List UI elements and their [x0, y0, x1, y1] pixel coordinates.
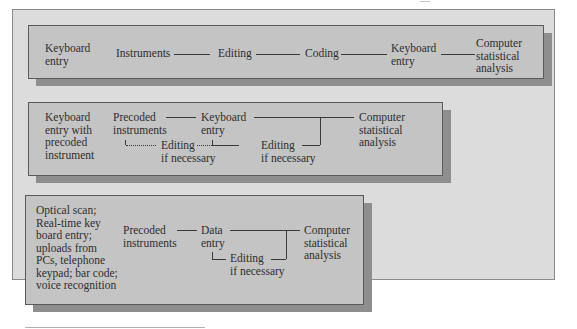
- connector: [441, 54, 475, 55]
- connector: [174, 54, 210, 55]
- connector: [254, 117, 354, 118]
- text-line: instruments: [123, 237, 177, 250]
- row1-keyboard-entry: Keyboard entry: [391, 42, 436, 67]
- dotted-connector: [197, 145, 212, 146]
- text-line: entry: [201, 124, 246, 137]
- text-line: Computer: [304, 224, 350, 237]
- row2-box: Keyboard entry with precoded instrument …: [28, 102, 443, 176]
- text-line: voice recognition: [36, 279, 118, 292]
- connector: [256, 54, 300, 55]
- text-line: entry with: [45, 124, 94, 137]
- connector: [341, 54, 387, 55]
- connector: [177, 230, 197, 231]
- row2-editing-1: Editing if necessary: [161, 139, 216, 164]
- connector: [320, 117, 321, 145]
- connector: [212, 252, 213, 259]
- row1-editing: Editing: [218, 47, 252, 60]
- row1-method: Keyboard entry: [45, 42, 90, 67]
- decorative-mark: [420, 1, 430, 2]
- row1-box: Keyboard entry Instruments Editing Codin…: [28, 25, 544, 79]
- row3-editing: Editing if necessary: [230, 252, 285, 277]
- row1-coding: Coding: [305, 47, 339, 60]
- text-line: Optical scan;: [36, 204, 118, 217]
- row3-analysis: Computer statistical analysis: [304, 224, 350, 262]
- text-line: Keyboard: [45, 111, 94, 124]
- text-line: instrument: [45, 149, 94, 162]
- text-line: entry: [391, 55, 436, 68]
- connector: [166, 117, 196, 118]
- text-line: Precoded: [123, 224, 177, 237]
- text-line: statistical: [304, 237, 350, 250]
- row2-keyboard-entry: Keyboard entry: [201, 111, 246, 136]
- text-line: instruments: [113, 124, 167, 137]
- connector: [212, 145, 239, 146]
- text-line: entry: [45, 55, 90, 68]
- connector: [286, 230, 287, 259]
- text-line: statistical: [359, 124, 405, 137]
- row1-analysis: Computer statistical analysis: [476, 37, 522, 75]
- text-line: uploads from: [36, 242, 118, 255]
- text-line: analysis: [359, 136, 405, 149]
- text-line: PCs, telephone: [36, 254, 118, 267]
- row3-box: Optical scan; Real-time key board entry;…: [25, 195, 364, 305]
- text-line: Data: [201, 224, 225, 237]
- text-line: analysis: [476, 62, 522, 75]
- text-line: keypad; bar code;: [36, 267, 118, 280]
- text-line: precoded: [45, 136, 94, 149]
- text-line: Computer: [359, 111, 405, 124]
- text-line: board entry;: [36, 229, 118, 242]
- text-line: statistical: [476, 50, 522, 63]
- text-line: Keyboard: [201, 111, 246, 124]
- text-line: if necessary: [230, 265, 285, 278]
- text-line: if necessary: [261, 152, 316, 165]
- connector: [212, 259, 226, 260]
- row3-precoded-instruments: Precoded instruments: [123, 224, 177, 249]
- row2-editing-2: Editing if necessary: [261, 139, 316, 164]
- row3-data-entry: Data entry: [201, 224, 225, 249]
- connector: [230, 230, 300, 231]
- text-line: Computer: [476, 37, 522, 50]
- text-line: analysis: [304, 249, 350, 262]
- row2-method: Keyboard entry with precoded instrument: [45, 111, 94, 161]
- dotted-connector: [126, 145, 156, 146]
- text-line: entry: [201, 237, 225, 250]
- row2-analysis: Computer statistical analysis: [359, 111, 405, 149]
- text-line: Keyboard: [45, 42, 90, 55]
- row1-instruments: Instruments: [116, 47, 170, 60]
- text-line: Precoded: [113, 111, 167, 124]
- connector: [271, 259, 286, 260]
- row3-method: Optical scan; Real-time key board entry;…: [36, 204, 118, 292]
- divider: [25, 327, 205, 328]
- text-line: if necessary: [161, 152, 216, 165]
- row2-precoded-instruments: Precoded instruments: [113, 111, 167, 136]
- text-line: Real-time key: [36, 217, 118, 230]
- text-line: Keyboard: [391, 42, 436, 55]
- connector: [302, 145, 320, 146]
